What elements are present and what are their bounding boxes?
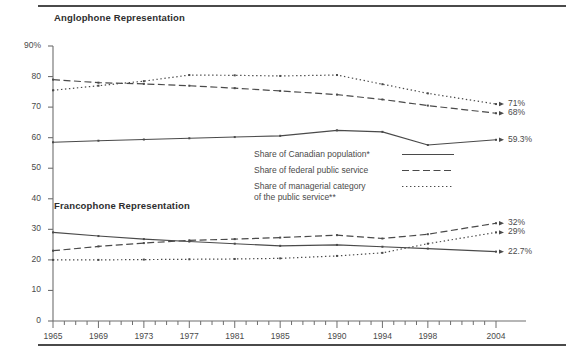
data-point-marker bbox=[495, 139, 497, 141]
data-point-marker bbox=[143, 83, 145, 85]
x-axis-tick-label: 1994 bbox=[373, 331, 392, 341]
data-point-marker bbox=[97, 82, 99, 84]
data-point-marker bbox=[97, 235, 99, 237]
series-line bbox=[53, 232, 496, 251]
data-point-marker bbox=[427, 243, 429, 245]
data-point-marker bbox=[427, 248, 429, 250]
data-point-marker bbox=[97, 245, 99, 247]
data-point-marker bbox=[52, 141, 54, 143]
data-point-marker bbox=[279, 237, 281, 239]
x-axis-tick-label: 1973 bbox=[134, 331, 153, 341]
x-axis-tick-label: 1998 bbox=[418, 331, 437, 341]
data-point-marker bbox=[234, 74, 236, 76]
y-axis-tick-label: 10 bbox=[15, 284, 41, 294]
chart-legend: Share of Canadian population*Share of fe… bbox=[254, 149, 484, 208]
data-point-marker bbox=[97, 259, 99, 261]
y-axis-tick-label: 0 bbox=[15, 315, 41, 325]
legend-item-label: Share of Canadian population* bbox=[254, 149, 402, 160]
series-line bbox=[53, 232, 496, 260]
data-point-marker bbox=[495, 222, 497, 224]
data-point-marker bbox=[495, 251, 497, 253]
data-point-marker bbox=[336, 244, 338, 246]
data-point-marker bbox=[188, 258, 190, 260]
legend-item-line-swatch bbox=[402, 181, 458, 192]
end-label-arrow bbox=[499, 138, 504, 142]
y-axis-tick-label: 40 bbox=[15, 193, 41, 203]
end-label-arrow bbox=[499, 102, 504, 106]
legend-item-line-swatch bbox=[402, 165, 458, 176]
data-point-marker bbox=[52, 259, 54, 261]
y-axis-tick-label: 70 bbox=[15, 101, 41, 111]
end-label-arrow bbox=[499, 230, 504, 234]
data-point-marker bbox=[279, 135, 281, 137]
end-label-arrow bbox=[499, 111, 504, 115]
series-end-label: 29% bbox=[508, 226, 525, 236]
series-line bbox=[53, 75, 496, 104]
data-point-marker bbox=[427, 233, 429, 235]
legend-item: Share of Canadian population* bbox=[254, 149, 484, 160]
data-point-marker bbox=[234, 238, 236, 240]
data-point-marker bbox=[336, 74, 338, 76]
legend-item-label: Share of federal public service bbox=[254, 165, 402, 176]
data-point-marker bbox=[143, 259, 145, 261]
data-point-marker bbox=[234, 258, 236, 260]
data-point-marker bbox=[52, 231, 54, 233]
data-point-marker bbox=[381, 246, 383, 248]
y-axis-tick-label: 80 bbox=[15, 71, 41, 81]
legend-item-label: Share of managerial category of the publ… bbox=[254, 181, 402, 203]
data-point-marker bbox=[336, 129, 338, 131]
data-point-marker bbox=[336, 255, 338, 257]
legend-item-line-swatch bbox=[402, 149, 458, 160]
data-point-marker bbox=[495, 103, 497, 105]
data-point-marker bbox=[52, 89, 54, 91]
data-point-marker bbox=[234, 243, 236, 245]
x-axis-tick-label: 1977 bbox=[180, 331, 199, 341]
data-point-marker bbox=[97, 140, 99, 142]
data-point-marker bbox=[234, 87, 236, 89]
data-point-marker bbox=[279, 257, 281, 259]
data-point-marker bbox=[279, 90, 281, 92]
x-axis-tick-label: 1990 bbox=[328, 331, 347, 341]
series-end-label: 68% bbox=[508, 107, 525, 117]
data-point-marker bbox=[381, 131, 383, 133]
figure-container: Anglophone Representation Francophone Re… bbox=[0, 0, 572, 359]
x-axis-tick-label: 1969 bbox=[89, 331, 108, 341]
end-label-arrow bbox=[499, 221, 504, 225]
x-axis-tick-label: 1965 bbox=[44, 331, 63, 341]
data-point-marker bbox=[143, 242, 145, 244]
data-point-marker bbox=[188, 74, 190, 76]
x-axis-tick-label: 2004 bbox=[487, 331, 506, 341]
data-point-marker bbox=[188, 137, 190, 139]
legend-item: Share of managerial category of the publ… bbox=[254, 181, 484, 203]
series-end-label: 59.3% bbox=[508, 134, 532, 144]
data-point-marker bbox=[234, 136, 236, 138]
x-axis-tick-label: 1985 bbox=[271, 331, 290, 341]
y-axis-tick-label: 30 bbox=[15, 223, 41, 233]
data-point-marker bbox=[143, 80, 145, 82]
data-point-marker bbox=[188, 85, 190, 87]
data-point-marker bbox=[381, 83, 383, 85]
y-axis-tick-label: 20 bbox=[15, 254, 41, 264]
data-point-marker bbox=[279, 75, 281, 77]
legend-item: Share of federal public service bbox=[254, 165, 484, 176]
data-point-marker bbox=[143, 238, 145, 240]
x-axis-tick-label: 1981 bbox=[225, 331, 244, 341]
data-point-marker bbox=[279, 245, 281, 247]
data-point-marker bbox=[52, 250, 54, 252]
data-point-marker bbox=[427, 105, 429, 107]
y-axis-tick-label: 50 bbox=[15, 162, 41, 172]
data-point-marker bbox=[495, 112, 497, 114]
data-point-marker bbox=[52, 79, 54, 81]
series-line bbox=[53, 80, 496, 114]
data-point-marker bbox=[336, 94, 338, 96]
y-axis-tick-label: 60 bbox=[15, 132, 41, 142]
data-point-marker bbox=[336, 234, 338, 236]
series-end-label: 71% bbox=[508, 98, 525, 108]
data-point-marker bbox=[188, 239, 190, 241]
series-end-label: 22.7% bbox=[508, 246, 532, 256]
data-point-marker bbox=[381, 98, 383, 100]
series-line bbox=[53, 130, 496, 145]
data-point-marker bbox=[381, 252, 383, 254]
y-axis-tick-label: 90% bbox=[15, 40, 41, 50]
data-point-marker bbox=[143, 139, 145, 141]
